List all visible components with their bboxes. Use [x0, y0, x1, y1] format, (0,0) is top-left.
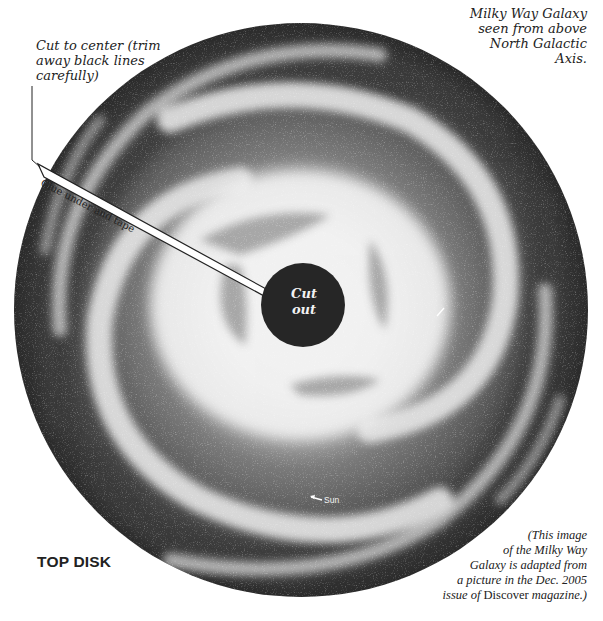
title-line: North Galactic — [437, 36, 587, 51]
cut-note-line: Cut to center (trim — [36, 38, 176, 53]
credit-line: issue of Discover magazine.) — [407, 588, 587, 603]
disk-name-label: TOP DISK — [37, 553, 111, 571]
credit-note: (This image of the Milky Way Galaxy is a… — [407, 528, 587, 603]
cut-out-line: Cut — [268, 286, 340, 302]
cut-note-line: carefully) — [36, 68, 176, 83]
credit-line: a picture in the Dec. 2005 — [407, 573, 587, 588]
cut-line — [32, 86, 40, 167]
credit-line: (This image — [407, 528, 587, 543]
credit-line: of the Milky Way — [407, 543, 587, 558]
cut-out-label: Cut out — [268, 286, 340, 318]
galaxy-title-note: Milky Way Galaxy seen from above North G… — [437, 6, 587, 66]
title-line: seen from above — [437, 21, 587, 36]
cut-note-line: away black lines — [36, 53, 176, 68]
title-line: Axis. — [437, 51, 587, 66]
credit-prefix: issue of — [443, 588, 484, 602]
title-line: Milky Way Galaxy — [437, 6, 587, 21]
magazine-name: Discover — [484, 588, 529, 602]
credit-line: Galaxy is adapted from — [407, 558, 587, 573]
credit-suffix: magazine.) — [529, 588, 587, 602]
cut-instruction-note: Cut to center (trim away black lines car… — [36, 38, 176, 83]
sun-label: Sun — [324, 495, 339, 505]
cut-out-line: out — [268, 302, 340, 318]
